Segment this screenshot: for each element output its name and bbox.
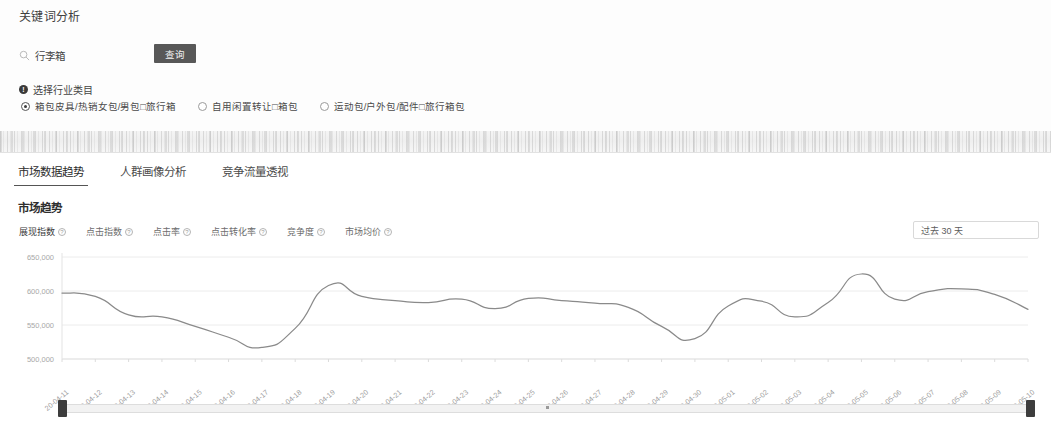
y-axis-tick-label: 550,000 xyxy=(27,321,54,330)
category-option-label: 自用闲置转让□箱包 xyxy=(212,99,298,113)
market-trend-section: 市场数据趋势 人群画像分析 竞争流量透视 市场趋势 展现指数 ? 点击指数 ? … xyxy=(0,153,1051,421)
help-icon[interactable]: ? xyxy=(384,228,392,236)
category-option-label: 箱包皮具/热销女包/男包□旅行箱 xyxy=(35,99,176,113)
range-handle-left[interactable] xyxy=(58,400,67,417)
page-title: 关键词分析 xyxy=(19,7,81,24)
range-handle-right[interactable] xyxy=(1026,400,1035,417)
metric-chip-click-rate[interactable]: 点击率 ? xyxy=(153,225,191,238)
metric-chip-impression-index[interactable]: 展现指数 ? xyxy=(19,225,66,238)
search-input[interactable]: 行李箱 xyxy=(19,44,139,66)
metric-chip-label: 点击率 xyxy=(153,225,180,238)
radio-icon xyxy=(198,102,207,111)
trend-line-chart: 500,000550,000600,000650,00020-04-1120-0… xyxy=(0,247,1051,421)
help-icon[interactable]: ? xyxy=(317,228,325,236)
metric-chip-competition[interactable]: 竞争度 ? xyxy=(287,225,325,238)
date-range-select[interactable]: 过去 30 天 xyxy=(913,221,1039,239)
radio-icon xyxy=(320,102,329,111)
category-option-1[interactable]: 自用闲置转让□箱包 xyxy=(198,99,298,113)
y-axis-tick-label: 600,000 xyxy=(27,287,54,296)
search-row: 行李箱 xyxy=(19,43,139,67)
help-icon[interactable]: ? xyxy=(259,228,267,236)
tab-bar: 市场数据趋势 人群画像分析 竞争流量透视 xyxy=(18,163,288,186)
search-input-value: 行李箱 xyxy=(35,48,65,63)
chart-range-scrollbar[interactable] xyxy=(62,404,1027,413)
metric-chip-label: 市场均价 xyxy=(345,225,381,238)
market-trend-chart: 500,000550,000600,000650,00020-04-1120-0… xyxy=(0,247,1051,421)
category-option-0[interactable]: 箱包皮具/热销女包/男包□旅行箱 xyxy=(21,99,176,113)
metric-chip-market-average-price[interactable]: 市场均价 ? xyxy=(345,225,392,238)
scrollbar-marker xyxy=(546,406,549,409)
metric-chip-group: 展现指数 ? 点击指数 ? 点击率 ? 点击转化率 ? 竞争度 ? 市场均价 ? xyxy=(19,225,392,238)
metric-chip-label: 点击指数 xyxy=(86,225,122,238)
radio-icon xyxy=(21,102,30,111)
help-icon[interactable]: ? xyxy=(58,228,66,236)
category-option-2[interactable]: 运动包/户外包/配件□旅行箱包 xyxy=(320,99,465,113)
query-button[interactable]: 查询 xyxy=(154,44,196,63)
metric-chip-label: 竞争度 xyxy=(287,225,314,238)
category-radio-group: 箱包皮具/热销女包/男包□旅行箱 自用闲置转让□箱包 运动包/户外包/配件□旅行… xyxy=(21,99,465,113)
category-label: ! 选择行业类目 xyxy=(19,82,93,97)
category-option-label: 运动包/户外包/配件□旅行箱包 xyxy=(334,99,465,113)
metric-chip-label: 展现指数 xyxy=(19,225,55,238)
metric-chip-label: 点击转化率 xyxy=(211,225,256,238)
trend-line-series xyxy=(62,274,1028,348)
section-title: 市场趋势 xyxy=(18,199,62,215)
date-range-value: 过去 30 天 xyxy=(921,224,963,237)
section-divider xyxy=(0,131,1051,153)
tab-competition-traffic[interactable]: 竞争流量透视 xyxy=(222,163,288,186)
metric-chip-click-conversion-rate[interactable]: 点击转化率 ? xyxy=(211,225,267,238)
keyword-analysis-panel: 关键词分析 行李箱 查询 ! 选择行业类目 箱包皮具/热销女包/男包□旅行箱 自… xyxy=(0,0,1051,131)
tab-market-data-trend[interactable]: 市场数据趋势 xyxy=(18,163,84,186)
y-axis-tick-label: 500,000 xyxy=(27,355,54,364)
tab-audience-profile[interactable]: 人群画像分析 xyxy=(120,163,186,186)
help-icon[interactable]: ? xyxy=(183,228,191,236)
info-icon: ! xyxy=(19,85,28,94)
metric-chip-click-index[interactable]: 点击指数 ? xyxy=(86,225,133,238)
y-axis-tick-label: 650,000 xyxy=(27,253,54,262)
help-icon[interactable]: ? xyxy=(125,228,133,236)
category-label-text: 选择行业类目 xyxy=(33,82,93,97)
search-icon xyxy=(19,50,30,61)
